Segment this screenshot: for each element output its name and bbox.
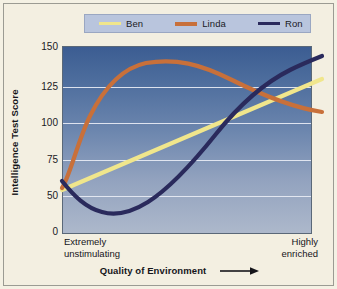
- y-tick-125: 125: [24, 81, 58, 92]
- chart-figure: Ben Linda Ron Intelligence Test Score 15…: [0, 0, 337, 289]
- y-tick-100: 100: [24, 117, 58, 128]
- x-axis-title: Quality of Environment: [80, 265, 280, 276]
- series-line-linda: [62, 61, 322, 188]
- x-axis-label-left-line1: Extremely: [64, 236, 174, 248]
- x-axis-label-left: Extremely unstimulating: [64, 236, 174, 259]
- y-tick-0: 0: [24, 226, 58, 237]
- legend-entry-ben: Ben: [99, 18, 143, 29]
- legend-swatch-linda: [175, 22, 197, 26]
- y-axis-ticks: 150 125 100 75 50 0: [24, 0, 58, 289]
- chart-legend: Ben Linda Ron: [84, 14, 311, 33]
- legend-swatch-ron: [258, 22, 280, 25]
- y-tick-75: 75: [24, 154, 58, 165]
- x-axis-label-right-line1: Highly: [258, 236, 318, 248]
- y-axis-title-text: Intelligence Test Score: [9, 89, 20, 195]
- x-axis-label-right-line2: enriched: [258, 248, 318, 260]
- x-axis-label-left-line2: unstimulating: [64, 248, 174, 260]
- legend-entry-ron: Ron: [258, 18, 303, 29]
- legend-swatch-ben: [99, 22, 121, 25]
- legend-label-ben: Ben: [126, 18, 143, 29]
- legend-entry-linda: Linda: [175, 18, 226, 29]
- legend-label-ron: Ron: [285, 18, 303, 29]
- x-axis-title-text: Quality of Environment: [100, 265, 207, 276]
- y-tick-50: 50: [24, 190, 58, 201]
- legend-label-linda: Linda: [202, 18, 226, 29]
- x-axis-label-right: Highly enriched: [258, 236, 318, 259]
- series-lines: [52, 40, 324, 240]
- y-axis-title: Intelligence Test Score: [7, 78, 21, 206]
- right-arrow-icon: [220, 266, 260, 276]
- y-tick-150: 150: [24, 41, 58, 52]
